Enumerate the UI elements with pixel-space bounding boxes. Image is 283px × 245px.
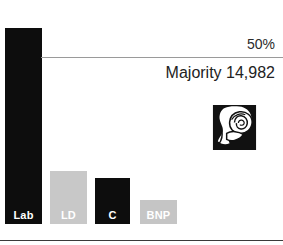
bar-bnp[interactable]: BNP: [140, 200, 177, 224]
bar-label-ld: LD: [50, 209, 87, 221]
threshold-label: 50%: [247, 35, 275, 53]
threshold-line-50-percent: [41, 57, 283, 58]
bar-label-lab: Lab: [5, 209, 42, 221]
bar-lab[interactable]: Lab: [5, 28, 42, 224]
bar-label-c: C: [95, 209, 130, 221]
bottom-divider: [0, 240, 283, 241]
bar-chart: Lab LD C BNP 50% Majority 14,982: [0, 0, 283, 245]
bar-ld[interactable]: LD: [50, 171, 87, 224]
bar-c[interactable]: C: [95, 178, 130, 224]
bar-label-bnp: BNP: [140, 209, 177, 221]
labour-rose-icon: [210, 103, 259, 152]
majority-label: Majority 14,982: [166, 63, 275, 83]
